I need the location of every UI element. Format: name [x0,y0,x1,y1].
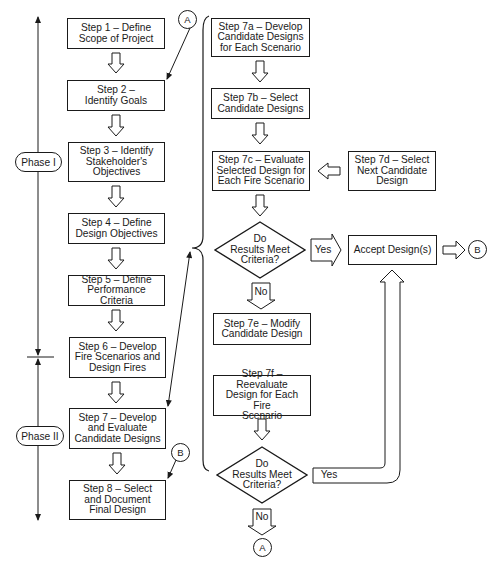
no-branch-1-label: No [252,285,270,299]
connector-a-bottom[interactable]: A [253,538,272,557]
step-8-box[interactable]: Step 8 – Select and Document Final Desig… [69,480,166,520]
phase-2-label: Phase II [16,426,64,446]
step-7b-box[interactable]: Step 7b – Select Candidate Designs [211,88,310,119]
step-7a-box[interactable]: Step 7a – Develop Candidate Designs for … [211,18,310,57]
yes-branch-1-label: Yes [312,242,334,258]
connector-b-right[interactable]: B [468,240,487,259]
step-7e-box[interactable]: Step 7e – Modify Candidate Design [213,313,311,345]
step-4-box[interactable]: Step 4 – Define Design Objectives [68,213,165,244]
connector-a-top[interactable]: A [178,10,197,29]
decision-1-label: Do Results Meet Criteria? [225,232,295,268]
step-7-box[interactable]: Step 7 – Develop and Evaluate Candidate … [69,408,166,449]
phase-1-label: Phase I [15,152,62,172]
step-7f-box[interactable]: Step 7f – Reevaluate Design for Each Fir… [213,375,311,416]
yes-branch-2-label: Yes [316,468,342,483]
step-1-box[interactable]: Step 1 – Define Scope of Project [67,18,165,49]
performance-based-design-flowchart: Phase I Phase II Step 1 – Define Scope o… [0,0,499,569]
step-7c-box[interactable]: Step 7c – Evaluate Selected Design for E… [212,151,310,191]
no-branch-2-label: No [253,510,271,524]
step-6-box[interactable]: Step 6 – Develop Fire Scenarios and Desi… [69,337,166,378]
step-5-box[interactable]: Step 5 – Define Performance Criteria [68,275,165,306]
step-7d-box[interactable]: Step 7d – Select Next Candidate Design [348,151,436,191]
connector-b-left[interactable]: B [171,443,190,462]
accept-designs-box[interactable]: Accept Design(s) [348,235,437,265]
step-3-box[interactable]: Step 3 – Identify Stakeholder's Objectiv… [68,142,165,182]
step-2-box[interactable]: Step 2 – Identify Goals [67,80,165,111]
decision-2-label: Do Results Meet Criteria? [227,457,297,493]
